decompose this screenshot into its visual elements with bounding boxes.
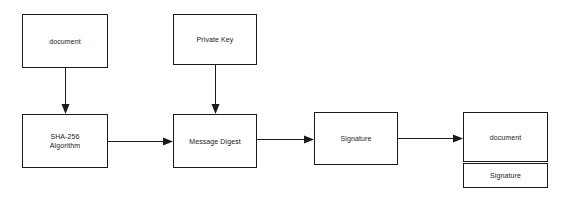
edge-message-digest-to-signature — [257, 136, 314, 144]
node-signed-document-body[interactable]: document — [463, 112, 548, 162]
node-signed-document-signature-label: Signature — [488, 171, 523, 180]
diagram-canvas: document Private Key SHA-256 Algorithm M… — [0, 0, 568, 200]
node-private-key-label: Private Key — [195, 35, 236, 44]
node-private-key[interactable]: Private Key — [173, 14, 257, 65]
node-sha256-algorithm-label: SHA-256 Algorithm — [48, 132, 82, 150]
node-signed-document-body-label: document — [488, 133, 524, 142]
node-signed-document-signature[interactable]: Signature — [463, 163, 548, 188]
edge-private-key-to-message-digest — [212, 65, 220, 114]
node-signature-label: Signature — [339, 134, 374, 143]
node-document-input[interactable]: document — [22, 14, 108, 68]
node-message-digest-label: Message Digest — [187, 137, 243, 146]
node-message-digest[interactable]: Message Digest — [173, 114, 257, 168]
node-signature[interactable]: Signature — [314, 112, 398, 165]
edge-sha256-to-message-digest — [108, 138, 173, 146]
node-signed-document: document Signature — [463, 112, 548, 188]
edge-signature-to-signed-document — [398, 135, 463, 143]
edge-document-to-sha256 — [62, 68, 70, 114]
node-document-input-label: document — [47, 37, 83, 46]
node-sha256-algorithm[interactable]: SHA-256 Algorithm — [22, 114, 108, 168]
